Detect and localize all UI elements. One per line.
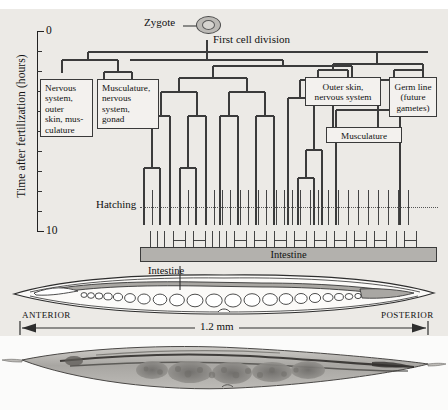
fate-line: skin, mus-: [45, 114, 88, 124]
fate-line: culature: [45, 125, 88, 135]
fate-line: outer: [45, 104, 88, 114]
fate-line: gametes): [394, 103, 432, 113]
fate-box-germ-line: Germ line (future gametes): [389, 77, 437, 117]
fate-line: Germ line: [394, 82, 432, 92]
fate-line: system,: [102, 104, 154, 114]
zygote-nucleus-icon: [202, 20, 215, 30]
worm-photomicrograph: [0, 336, 448, 410]
scale-bar-label: 1.2 mm: [195, 320, 239, 332]
first-cell-division-label: First cell division: [213, 33, 290, 45]
fate-line: Musculature: [331, 131, 397, 141]
hatching-label: Hatching: [96, 198, 136, 210]
fate-box-outer-skin-nervous: Outer skin, nervous system: [305, 77, 381, 106]
fate-line: Outer skin,: [310, 82, 376, 92]
hatching-line: [140, 207, 438, 208]
fate-line: (future: [394, 92, 432, 102]
fate-box-musculature-nervous-gonad: Musculature, nervous system, gonad: [97, 79, 159, 129]
fate-line: nervous system: [310, 92, 376, 102]
zygote-label: Zygote: [144, 16, 175, 28]
intestine-bar-label: Intestine: [270, 249, 306, 260]
intestine-bar: Intestine: [140, 247, 437, 262]
worm-intestine-callout-label: Intestine: [148, 265, 184, 276]
fate-line: Nervous: [45, 83, 88, 93]
figure-canvas: Time after fertilization (hours) 0 10: [0, 0, 448, 410]
fate-box-nervous-outer-skin: Nervous system, outer skin, mus- culatur…: [40, 79, 93, 137]
fate-line: system,: [45, 93, 88, 103]
fate-box-musculature: Musculature: [326, 127, 402, 143]
fate-line: nervous: [102, 93, 154, 103]
zygote-cell-icon: [196, 16, 221, 34]
fate-line: Musculature,: [102, 83, 154, 93]
fate-line: gonad: [102, 114, 154, 124]
